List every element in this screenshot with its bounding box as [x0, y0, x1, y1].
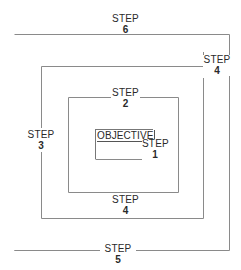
step-number: 3: [27, 141, 55, 151]
step-word: STEP: [111, 195, 140, 205]
step-4-top-right-label: STEP 4: [203, 55, 231, 76]
step-number: 5: [103, 255, 133, 265]
step-6-label: STEP 6: [111, 14, 140, 35]
step-number: 6: [111, 25, 140, 35]
step-number: 4: [111, 206, 140, 216]
step-word: STEP: [27, 130, 55, 140]
step-word: STEP: [111, 88, 140, 98]
step-number: 1: [142, 150, 168, 160]
step-2-label: STEP 2: [111, 88, 140, 109]
step-3-label: STEP 3: [27, 130, 55, 151]
step-4-bottom-label: STEP 4: [111, 195, 140, 216]
step-1-label: STEP 1: [142, 139, 168, 160]
step-number: 4: [203, 66, 231, 76]
step-word: STEP: [142, 139, 168, 149]
concentric-steps-diagram: OBJECTIVE STEP 1 STEP 2 STEP 3 STEP 4 ST…: [0, 0, 241, 270]
step-word: STEP: [111, 14, 140, 24]
step-word: STEP: [203, 55, 231, 65]
step-5-label: STEP 5: [103, 244, 133, 265]
step-word: STEP: [103, 244, 133, 254]
step-number: 2: [111, 99, 140, 109]
